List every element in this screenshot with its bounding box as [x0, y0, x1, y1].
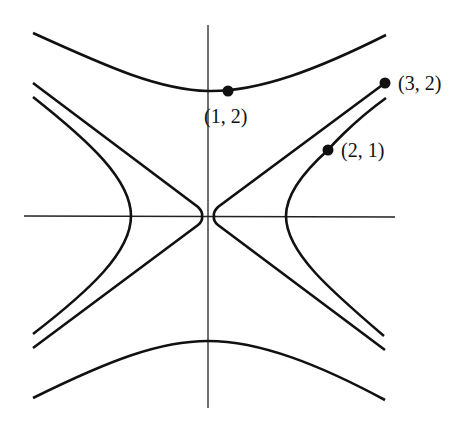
point-1-2-label: (1, 2): [204, 106, 247, 126]
point-1-2-marker: [223, 86, 234, 97]
point-2-1-marker: [323, 145, 334, 156]
hyperbola-diagram: (1, 2) (3, 2) (2, 1): [0, 0, 473, 426]
x-axis: [24, 216, 395, 217]
point-2-1-label: (2, 1): [341, 140, 384, 160]
bottom-branch-curve: [33, 341, 385, 400]
point-3-2-marker: [380, 78, 391, 89]
top-branch-curve: [33, 33, 386, 91]
diagram-svg: [0, 0, 473, 426]
point-3-2-label: (3, 2): [398, 73, 441, 93]
